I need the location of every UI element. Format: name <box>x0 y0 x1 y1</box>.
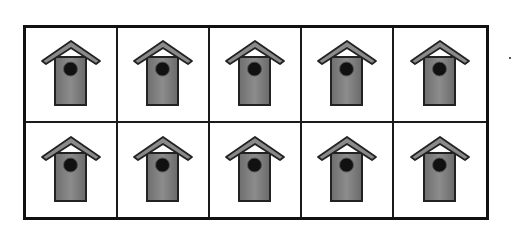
grid-cell <box>302 28 394 123</box>
birdhouse-icon <box>224 39 286 109</box>
grid-cell <box>118 123 210 218</box>
grid-cell <box>26 28 118 123</box>
birdhouse-icon <box>316 135 378 205</box>
grid-cell <box>394 123 486 218</box>
grid-cell <box>26 123 118 218</box>
birdhouse-icon <box>409 39 471 109</box>
birdhouse-icon <box>316 39 378 109</box>
grid-cell <box>302 123 394 218</box>
grid-cell <box>394 28 486 123</box>
birdhouse-icon <box>132 135 194 205</box>
birdhouse-icon <box>40 135 102 205</box>
birdhouse-grid <box>23 25 489 220</box>
grid-cell <box>210 28 302 123</box>
mark <box>509 57 511 59</box>
grid-cell <box>118 28 210 123</box>
grid-cell <box>210 123 302 218</box>
birdhouse-icon <box>40 39 102 109</box>
birdhouse-icon <box>224 135 286 205</box>
birdhouse-icon <box>409 135 471 205</box>
birdhouse-icon <box>132 39 194 109</box>
